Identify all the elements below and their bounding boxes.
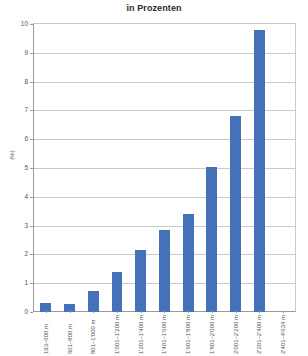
y-tick-label: 0 bbox=[24, 307, 28, 316]
y-tick-label: 5 bbox=[24, 163, 28, 172]
bar[interactable] bbox=[159, 230, 170, 312]
y-tick-label: 3 bbox=[24, 221, 28, 230]
y-tick: 9 bbox=[0, 53, 33, 54]
x-label-slot: 2'401–4'634 m bbox=[271, 313, 295, 356]
bar-slot bbox=[200, 24, 224, 312]
x-label-slot: 801–1'000 m bbox=[81, 313, 105, 356]
x-tick-mark bbox=[212, 311, 213, 313]
y-tick: 7 bbox=[0, 110, 33, 111]
x-tick-label: 601–800 m bbox=[67, 324, 73, 354]
x-tick-label: 1'201–1'400 m bbox=[138, 315, 144, 354]
y-tick-mark bbox=[30, 312, 33, 313]
bar[interactable] bbox=[135, 250, 146, 312]
x-label-slot: 1'801–2'000 m bbox=[200, 313, 224, 356]
x-tick-label: 2'201–2'400 m bbox=[256, 315, 262, 354]
x-tick-mark bbox=[93, 311, 94, 313]
x-tick-label: 801–1'000 m bbox=[90, 319, 96, 354]
bar[interactable] bbox=[230, 116, 241, 312]
bar-slot bbox=[34, 24, 58, 312]
x-tick-mark bbox=[283, 311, 284, 313]
y-tick: 5 bbox=[0, 168, 33, 169]
x-label-slot: 1'601–1'800 m bbox=[176, 313, 200, 356]
y-tick-label: 2 bbox=[24, 249, 28, 258]
y-tick: 10 bbox=[0, 24, 33, 25]
y-tick-label: 4 bbox=[24, 192, 28, 201]
x-tick-mark bbox=[46, 311, 47, 313]
x-tick-mark bbox=[117, 311, 118, 313]
x-tick-label: 1'801–2'000 m bbox=[209, 315, 215, 354]
x-tick-label: 1'601–1'800 m bbox=[185, 315, 191, 354]
bar-slot bbox=[176, 24, 200, 312]
bar-chart: in Prozenten (%) 109876543210 193–600 m6… bbox=[0, 0, 308, 356]
y-tick: 2 bbox=[0, 254, 33, 255]
x-tick-label: 1'401–1'600 m bbox=[161, 315, 167, 354]
x-label-slot: 193–600 m bbox=[34, 313, 58, 356]
bar-slot bbox=[105, 24, 129, 312]
x-label-slot: 1'001–1'200 m bbox=[105, 313, 129, 356]
x-tick-label: 1'001–1'200 m bbox=[114, 315, 120, 354]
bar[interactable] bbox=[206, 167, 217, 312]
x-tick-mark bbox=[141, 311, 142, 313]
x-axis-ticks: 193–600 m601–800 m801–1'000 m1'001–1'200… bbox=[34, 313, 295, 356]
y-tick-label: 1 bbox=[24, 278, 28, 287]
bar-slot bbox=[271, 24, 295, 312]
y-tick: 1 bbox=[0, 283, 33, 284]
x-tick-label: 2'401–4'634 m bbox=[280, 315, 286, 354]
bar[interactable] bbox=[254, 30, 265, 312]
y-axis-ticks: 109876543210 bbox=[0, 23, 33, 313]
bar-slot bbox=[129, 24, 153, 312]
bar-series bbox=[34, 24, 295, 312]
y-tick-label: 7 bbox=[24, 105, 28, 114]
y-tick: 6 bbox=[0, 139, 33, 140]
y-tick: 4 bbox=[0, 197, 33, 198]
y-tick-label: 9 bbox=[24, 48, 28, 57]
x-tick-mark bbox=[188, 311, 189, 313]
bar[interactable] bbox=[112, 272, 123, 312]
y-tick-label: 6 bbox=[24, 134, 28, 143]
bar[interactable] bbox=[88, 291, 99, 312]
x-tick-label: 2'001–2'200 m bbox=[233, 315, 239, 354]
bar-slot bbox=[81, 24, 105, 312]
x-tick-mark bbox=[164, 311, 165, 313]
y-tick-label: 10 bbox=[21, 19, 28, 28]
bar-slot bbox=[153, 24, 177, 312]
x-label-slot: 1'201–1'400 m bbox=[129, 313, 153, 356]
y-tick: 3 bbox=[0, 226, 33, 227]
x-label-slot: 601–800 m bbox=[58, 313, 82, 356]
x-tick-mark bbox=[70, 311, 71, 313]
bar-slot bbox=[58, 24, 82, 312]
x-label-slot: 2'001–2'200 m bbox=[224, 313, 248, 356]
x-tick-mark bbox=[259, 311, 260, 313]
x-tick-mark bbox=[236, 311, 237, 313]
y-tick: 8 bbox=[0, 82, 33, 83]
y-tick-label: 8 bbox=[24, 77, 28, 86]
x-label-slot: 2'201–2'400 m bbox=[248, 313, 272, 356]
bar-slot bbox=[224, 24, 248, 312]
x-label-slot: 1'401–1'600 m bbox=[153, 313, 177, 356]
x-tick-label: 193–600 m bbox=[43, 324, 49, 354]
chart-title: in Prozenten bbox=[0, 3, 308, 13]
y-tick: 0 bbox=[0, 312, 33, 313]
bar[interactable] bbox=[183, 214, 194, 312]
bar-slot bbox=[248, 24, 272, 312]
